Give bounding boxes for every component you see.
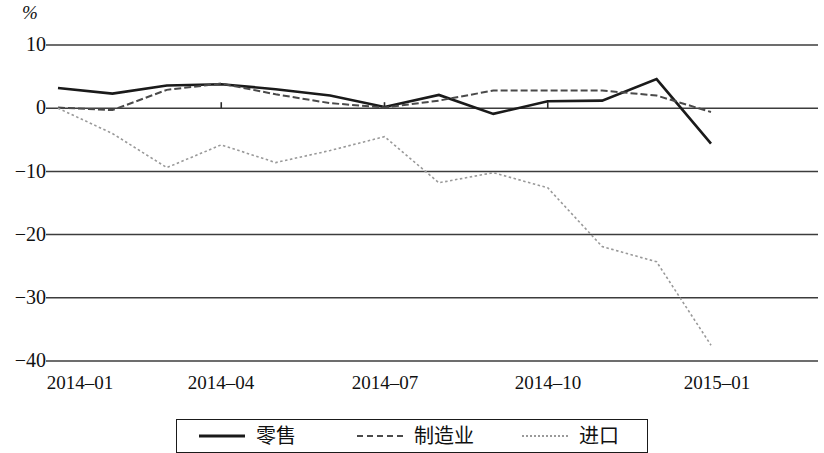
legend-swatch-dashed-icon (357, 430, 403, 442)
legend-swatch-solid-icon (199, 430, 245, 442)
series-line (58, 79, 711, 143)
x-axis-tick-label-3: 2014–10 (468, 372, 628, 394)
legend-label-retail: 零售 (256, 426, 296, 446)
x-axis-tick-label-2: 2014–07 (305, 372, 465, 394)
legend-label-imports: 进口 (579, 426, 619, 446)
legend: 零售 制造业 进口 (176, 419, 648, 453)
legend-item-retail: 零售 (199, 426, 296, 446)
legend-swatch-dotted-icon (522, 430, 568, 442)
legend-item-imports: 进口 (522, 426, 619, 446)
x-axis-tick-label-1: 2014–04 (141, 372, 301, 394)
chart-figure: % 10 0 −10 −20 −30 −40 2014–01 2014–04 2… (0, 0, 824, 453)
series-lines (58, 79, 711, 345)
x-axis-tick-label-4: 2015–01 (637, 372, 797, 394)
x-axis-tick-label-0: 2014–01 (0, 372, 160, 394)
legend-label-manufacturing: 制造业 (414, 426, 474, 446)
series-line (58, 108, 711, 345)
legend-item-manufacturing: 制造业 (357, 426, 474, 446)
